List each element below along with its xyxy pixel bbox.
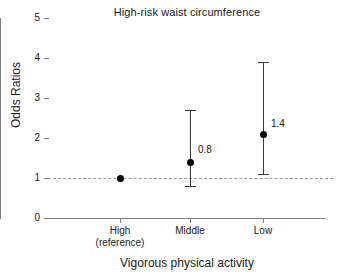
x-tick-label-line1: High	[110, 225, 131, 236]
y-tick-mark	[44, 98, 49, 99]
y-tick-label: 0	[6, 212, 40, 223]
x-tick-mark	[120, 218, 121, 223]
error-bar-stem	[263, 62, 264, 174]
y-tick-label: 2	[6, 132, 40, 143]
error-bar-cap-upper	[258, 62, 269, 63]
y-tick-label: 3	[6, 92, 40, 103]
error-bar-stem	[190, 110, 191, 186]
error-bar-cap-lower	[185, 186, 196, 187]
x-tick-mark	[263, 218, 264, 223]
x-tick-label-line2: (reference)	[74, 237, 166, 249]
y-tick-label: 4	[6, 52, 40, 63]
y-tick-mark	[44, 138, 49, 139]
x-axis-line	[48, 218, 326, 219]
error-bar-cap-upper	[185, 110, 196, 111]
y-tick-label: 1	[6, 172, 40, 183]
chart-title: High-risk waist circumference	[48, 6, 326, 18]
data-point-label: 0.8	[198, 144, 212, 155]
x-tick-label: Low	[217, 225, 309, 237]
data-point	[187, 159, 194, 166]
data-point	[260, 131, 267, 138]
error-bar-cap-lower	[258, 174, 269, 175]
x-tick-label-line1: Low	[254, 225, 272, 236]
y-tick-mark	[44, 58, 49, 59]
y-tick-mark	[44, 218, 49, 219]
y-axis-line	[0, 18, 1, 219]
x-axis-title: Vigorous physical activity	[48, 256, 326, 270]
data-point	[117, 175, 124, 182]
x-tick-mark	[190, 218, 191, 223]
x-tick-label-line1: Middle	[175, 225, 204, 236]
y-tick-mark	[44, 18, 49, 19]
data-point-label: 1.4	[271, 118, 285, 129]
odds-ratio-forest-plot: High-risk waist circumference Odds Ratio…	[0, 0, 346, 280]
y-tick-label: 5	[6, 12, 40, 23]
